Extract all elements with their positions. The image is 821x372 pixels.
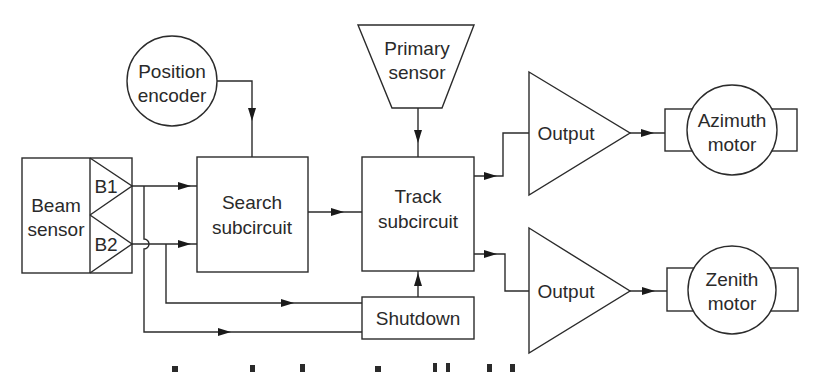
caption-fragment <box>300 364 305 372</box>
arrow-b1-search-icon <box>178 182 191 190</box>
caption-fragment <box>446 363 450 372</box>
b2-label: B2 <box>94 234 117 255</box>
zenith-motor-circle <box>688 246 776 334</box>
search-label-2: subcircuit <box>212 217 293 238</box>
caption-fragment <box>510 364 515 372</box>
position-encoder-label-2: encoder <box>138 85 207 106</box>
primary-sensor-block: Primary sensor <box>358 25 474 108</box>
track-subcircuit-block: Track subcircuit <box>362 157 474 271</box>
search-label-1: Search <box>222 192 282 213</box>
position-encoder-block: Position encoder <box>127 36 217 126</box>
track-label-1: Track <box>395 186 442 207</box>
arrow-encoder-search-icon <box>248 108 256 121</box>
track-label-2: subcircuit <box>378 211 459 232</box>
arrow-output-azimuth-icon <box>641 129 654 137</box>
output-lower-block: Output <box>529 228 630 353</box>
output-lower-label: Output <box>537 281 595 302</box>
shutdown-label: Shutdown <box>376 308 461 329</box>
primary-sensor-label-2: sensor <box>388 62 446 83</box>
output-upper-label: Output <box>537 123 595 144</box>
shutdown-block: Shutdown <box>362 297 474 339</box>
arrow-track-output-lower-icon <box>484 250 497 258</box>
cropped-caption <box>172 363 515 372</box>
arrow-b2-search-icon <box>178 240 191 248</box>
caption-fragment <box>433 363 437 372</box>
search-subcircuit-block: Search subcircuit <box>197 157 308 272</box>
position-encoder-label-1: Position <box>138 61 206 82</box>
arrow-b2-shutdown-icon <box>281 299 294 307</box>
azimuth-motor-label-1: Azimuth <box>698 110 767 131</box>
caption-fragment <box>172 366 178 372</box>
output-upper-block: Output <box>529 72 630 195</box>
zenith-motor-label-2: motor <box>708 293 757 314</box>
arrow-track-output-upper-icon <box>484 172 497 180</box>
arrow-primary-track-icon <box>414 130 422 143</box>
azimuth-motor-label-2: motor <box>708 134 757 155</box>
wire-encoder-search <box>217 81 252 157</box>
block-diagram: Beam sensor B1 B2 Position encoder Searc… <box>0 0 821 372</box>
arrow-output-zenith-icon <box>642 287 655 295</box>
beam-sensor-label-1: Beam <box>31 195 81 216</box>
arrow-search-track-icon <box>331 208 344 216</box>
arrow-shutdown-track-icon <box>414 273 422 286</box>
zenith-motor-block: Zenith motor <box>667 246 798 334</box>
caption-fragment <box>375 366 381 372</box>
beam-sensor-label-2: sensor <box>27 219 85 240</box>
arrow-b1-shutdown-icon <box>218 328 231 336</box>
wire-track-output-upper <box>474 133 529 176</box>
wire-track-output-lower <box>474 254 529 291</box>
primary-sensor-label-1: Primary <box>384 38 450 59</box>
b1-label: B1 <box>94 176 117 197</box>
azimuth-motor-block: Azimuth motor <box>665 85 797 175</box>
search-subcircuit-box <box>197 157 308 272</box>
zenith-motor-label-1: Zenith <box>706 269 759 290</box>
caption-fragment <box>487 364 492 372</box>
caption-fragment <box>250 365 255 372</box>
